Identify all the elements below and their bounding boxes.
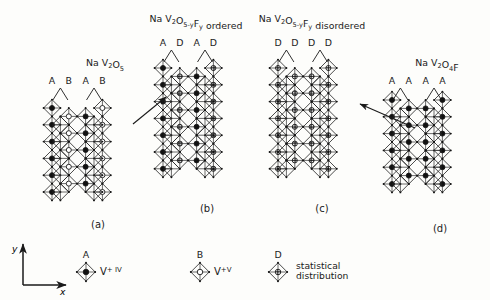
legend-item-A: AV+ IV [76, 249, 122, 282]
oxygen-vertex [212, 126, 214, 128]
site-A [160, 65, 165, 70]
octahedron-cell [383, 91, 402, 110]
oxygen-vertex [277, 84, 279, 86]
oxygen-vertex [76, 271, 78, 273]
oxygen-vertex [336, 67, 338, 69]
octahedron-cell [187, 134, 206, 153]
octahedron-cell [416, 149, 435, 168]
oxygen-vertex [268, 271, 270, 273]
oxygen-vertex [425, 166, 427, 168]
octahedron-cell [319, 59, 338, 78]
oxygen-vertex [93, 199, 95, 201]
oxygen-vertex [277, 134, 279, 136]
oxygen-vertex [391, 91, 393, 93]
panel-a-lattice [43, 99, 112, 202]
site-B [100, 105, 105, 110]
oxygen-vertex [162, 92, 164, 94]
oxygen-vertex [336, 151, 338, 153]
octahedron-cell [302, 151, 321, 170]
oxygen-vertex [101, 124, 103, 126]
oxygen-vertex [204, 143, 206, 145]
oxygen-vertex [162, 159, 164, 161]
oxygen-vertex [170, 126, 172, 128]
oxygen-vertex [51, 166, 53, 168]
octahedron-cell [76, 262, 96, 282]
site-D [292, 91, 297, 96]
oxygen-vertex [101, 149, 103, 151]
oxygen-vertex [196, 117, 198, 119]
oxygen-vertex [93, 132, 95, 134]
oxygen-vertex [221, 84, 223, 86]
oxygen-vertex [399, 107, 401, 109]
oxygen-vertex [101, 141, 103, 143]
oxygen-vertex [327, 75, 329, 77]
site-pointer-arrow [164, 50, 179, 62]
octahedron-cell [433, 91, 452, 110]
oxygen-vertex [311, 151, 313, 153]
oxygen-vertex [336, 134, 338, 136]
oxygen-vertex [277, 109, 279, 111]
oxygen-vertex [59, 132, 61, 134]
octahedron-cell [416, 133, 435, 152]
oxygen-vertex [433, 99, 435, 101]
site-A [423, 123, 428, 128]
oxygen-vertex [187, 126, 189, 128]
oxygen-vertex [190, 271, 192, 273]
oxygen-vertex [85, 141, 87, 143]
oxygen-vertex [204, 159, 206, 161]
oxygen-vertex [101, 174, 103, 176]
oxygen-vertex [327, 109, 329, 111]
oxygen-vertex [383, 116, 385, 118]
oxygen-vertex [285, 92, 287, 94]
octahedron-cell [170, 117, 189, 136]
site-A [406, 156, 411, 161]
oxygen-vertex [285, 109, 287, 111]
oxygen-vertex [391, 158, 393, 160]
site-D [292, 74, 297, 79]
site-pointer-arrow [313, 50, 328, 62]
oxygen-vertex [277, 92, 279, 94]
site-D [177, 74, 182, 79]
octahedron-cell [285, 67, 304, 86]
site-B [66, 147, 71, 152]
oxygen-vertex [212, 143, 214, 145]
site-D [309, 124, 314, 129]
oxygen-vertex [93, 115, 95, 117]
octahedron-cell [76, 107, 95, 126]
panel-b-site-label: A [193, 37, 200, 48]
oxygen-vertex [68, 107, 70, 109]
oxygen-vertex [294, 117, 296, 119]
panel-d-site-label: A [389, 75, 396, 86]
oxygen-vertex [170, 67, 172, 69]
octahedron-cell [285, 117, 304, 136]
oxygen-vertex [76, 149, 78, 151]
oxygen-vertex [450, 99, 452, 101]
octahedron-cell [204, 59, 223, 78]
oxygen-vertex [68, 141, 70, 143]
oxygen-vertex [204, 92, 206, 94]
site-pointer-arrow [87, 88, 102, 100]
oxygen-vertex [441, 141, 443, 143]
oxygen-vertex [101, 199, 103, 201]
legend-item-B: BV+V [190, 249, 232, 282]
panel-a [43, 99, 112, 202]
octahedron-cell [399, 149, 418, 168]
oxygen-vertex [170, 75, 172, 77]
oxygen-vertex [391, 166, 393, 168]
panel-d-caption: (d) [433, 223, 447, 234]
oxygen-vertex [204, 75, 206, 77]
oxygen-vertex [110, 124, 112, 126]
oxygen-vertex [311, 84, 313, 86]
oxygen-vertex [204, 67, 206, 69]
oxygen-vertex [391, 141, 393, 143]
site-D [177, 91, 182, 96]
oxygen-vertex [327, 134, 329, 136]
octahedron-cell [285, 151, 304, 170]
oxygen-vertex [277, 168, 279, 170]
oxygen-vertex [269, 101, 271, 103]
oxygen-vertex [391, 191, 393, 193]
oxygen-vertex [408, 183, 410, 185]
oxygen-vertex [450, 166, 452, 168]
site-A [194, 74, 199, 79]
site-A [83, 147, 88, 152]
